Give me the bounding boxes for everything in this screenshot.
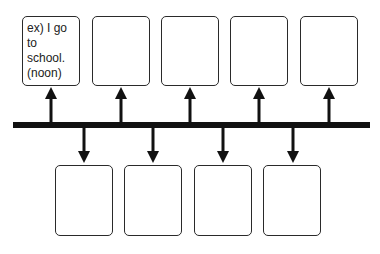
bottom-box-4[interactable] <box>263 165 321 236</box>
top-box-1[interactable]: ex) I go to school. (noon) <box>22 16 80 86</box>
box-text: ex) I go to school. (noon) <box>27 21 77 81</box>
timeline-bar <box>13 122 370 128</box>
top-box-3[interactable] <box>161 16 219 86</box>
up-arrows <box>51 93 329 124</box>
top-box-4[interactable] <box>230 16 288 86</box>
down-arrows <box>84 126 293 157</box>
bottom-box-3[interactable] <box>194 165 252 236</box>
top-box-2[interactable] <box>92 16 150 86</box>
bottom-box-1[interactable] <box>55 165 113 236</box>
bottom-box-2[interactable] <box>124 165 182 236</box>
top-box-5[interactable] <box>300 16 358 86</box>
